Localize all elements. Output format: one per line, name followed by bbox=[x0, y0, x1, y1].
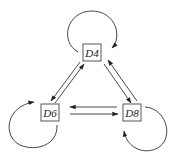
edge-d4-to-d6 bbox=[51, 62, 80, 101]
edge-d4-to-d8 bbox=[104, 64, 131, 103]
node-d4-label: D4 bbox=[84, 47, 99, 59]
edge-d8-to-d4 bbox=[108, 60, 137, 101]
node-d6-label: D6 bbox=[42, 107, 57, 119]
node-d8-label: D8 bbox=[124, 107, 139, 119]
diagram-svg: D4 D6 D8 bbox=[0, 0, 181, 158]
node-d4: D4 bbox=[83, 44, 101, 61]
node-d8: D8 bbox=[123, 104, 141, 121]
edge-d6-to-d4 bbox=[55, 64, 84, 103]
node-d6: D6 bbox=[41, 104, 59, 121]
state-diagram: D4 D6 D8 bbox=[0, 0, 181, 158]
